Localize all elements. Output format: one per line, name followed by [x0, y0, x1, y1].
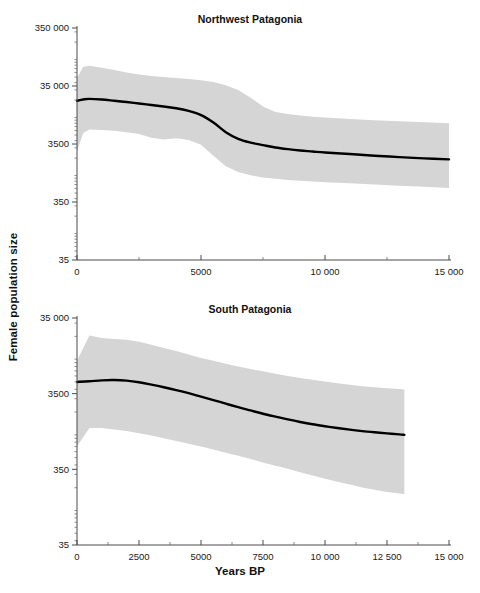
x-tick-label: 15 000 [434, 551, 463, 562]
x-tick-label: 12 500 [372, 551, 401, 562]
chart-plot-northwest-patagonia: 350 00035 0003500350350500010 00015 000 [0, 0, 480, 300]
y-tick-label: 350 000 [35, 22, 69, 33]
x-tick-label: 2500 [128, 551, 149, 562]
figure-panel: Female population size Northwest Patagon… [0, 0, 480, 593]
x-tick-label: 0 [74, 551, 79, 562]
chart-plot-south-patagonia: 35 000350035035025005000750010 00012 500… [0, 290, 480, 590]
y-tick-label: 350 [53, 464, 69, 475]
y-tick-label: 3500 [48, 138, 69, 149]
x-tick-label: 5000 [190, 551, 211, 562]
y-tick-label: 35 000 [40, 80, 69, 91]
y-tick-label: 35 [58, 539, 69, 550]
x-tick-label: 0 [74, 266, 79, 277]
hpd-band [77, 336, 404, 495]
y-tick-label: 35 [58, 254, 69, 265]
x-tick-label: 10 000 [310, 551, 339, 562]
x-tick-label: 7500 [252, 551, 273, 562]
y-tick-label: 350 [53, 196, 69, 207]
x-tick-label: 15 000 [434, 266, 463, 277]
x-axis-label: Years BP [0, 565, 480, 577]
hpd-band [77, 66, 449, 188]
y-tick-label: 35 000 [40, 312, 69, 323]
x-tick-label: 5000 [190, 266, 211, 277]
y-tick-label: 3500 [48, 388, 69, 399]
x-tick-label: 10 000 [310, 266, 339, 277]
